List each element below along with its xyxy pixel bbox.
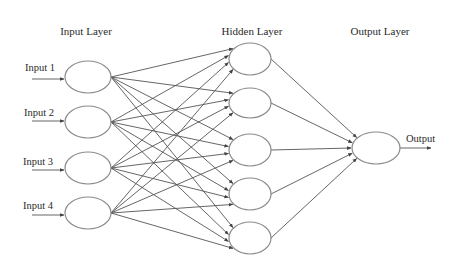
neuron-nodes [65,43,400,254]
connection-edge [111,113,233,213]
connection-edge [111,122,228,191]
neural-network-diagram: Input Layer Hidden Layer Output Layer In… [0,0,462,264]
input-4-label: Input 4 [23,200,54,211]
connection-edge [271,59,357,138]
output-node-o1 [352,132,400,164]
connection-edge [111,49,233,77]
input-layer-title: Input Layer [60,25,112,37]
connection-edge [271,148,351,150]
hidden-layer-title: Hidden Layer [222,25,283,37]
input-node-i3 [65,152,111,184]
connection-edge [111,77,233,93]
connection-edge [111,213,233,248]
input-1-label: Input 1 [25,62,55,73]
input-node-i2 [65,106,111,138]
output-label: Output [406,133,435,144]
hidden-node-h2 [229,88,271,118]
connection-edge [271,158,357,238]
hidden-node-h1 [229,43,271,75]
output-layer-title: Output Layer [351,25,410,37]
hidden-node-h4 [229,178,271,210]
input-node-i4 [65,197,111,229]
hidden-node-h3 [229,134,271,166]
connection-edge [111,56,228,122]
hidden-node-h5 [229,222,271,254]
connection-edge [111,122,228,147]
connection-edge [111,153,228,168]
input-3-label: Input 3 [23,156,53,167]
input-node-i1 [65,61,111,93]
connection-edge [111,168,228,197]
connection-edge [111,100,228,122]
input-2-label: Input 2 [24,107,54,118]
